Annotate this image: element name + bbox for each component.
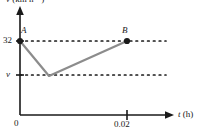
x-axis [20, 111, 174, 119]
y-axis-title: v (km h⁻¹) [6, 0, 44, 4]
marker-point-a [17, 38, 23, 44]
point-label-b: B [122, 26, 128, 35]
velocity-time-graph: v (km h⁻¹) t (h) 32 v 0 0.02 A B [0, 0, 202, 138]
y-tick-label-32: 32 [3, 36, 12, 45]
y-axis [16, 6, 24, 115]
x-tick-label-002: 0.02 [114, 120, 130, 129]
y-tick-label-v: v [6, 70, 10, 79]
point-label-a: A [21, 26, 27, 35]
x-tick-label-origin: 0 [14, 119, 19, 128]
x-axis-variable: t [178, 109, 181, 119]
x-axis-unit: (h) [183, 109, 194, 119]
y-axis-unit: (km h⁻¹) [12, 0, 44, 4]
x-axis-title: t (h) [178, 110, 193, 119]
graph-canvas [0, 0, 202, 138]
marker-point-b [124, 38, 130, 44]
velocity-curve [20, 41, 127, 76]
y-axis-variable: v [6, 0, 10, 4]
